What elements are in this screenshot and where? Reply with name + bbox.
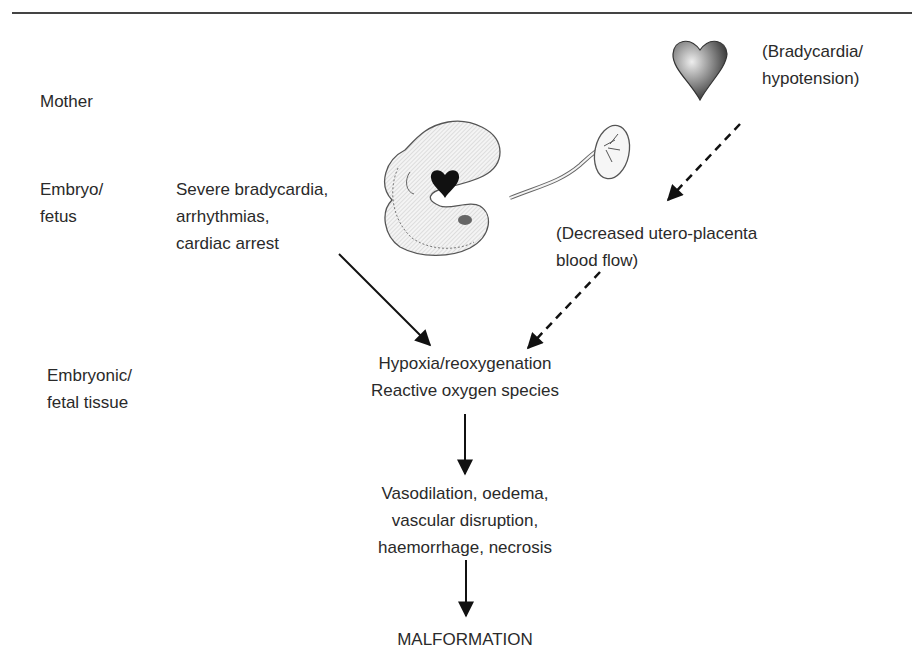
arrow-placental-to-hypoxia [528,272,600,348]
placenta-illustration [510,122,634,198]
diagram-graphics [0,0,924,669]
embryo-illustration [385,121,500,255]
arrow-maternal-to-placental [668,124,740,200]
heart-icon [673,41,727,100]
arrow-fetal-to-hypoxia [339,254,430,345]
